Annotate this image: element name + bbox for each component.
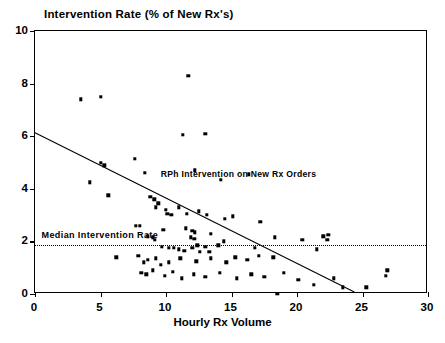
- scatter-point: [263, 275, 266, 278]
- scatter-point: [166, 212, 169, 215]
- scatter-point: [184, 227, 187, 230]
- y-tick-label: 6: [2, 129, 28, 141]
- scatter-point: [196, 244, 199, 247]
- scatter-point: [163, 274, 166, 277]
- x-tick-mark: [35, 292, 36, 297]
- scatter-point: [365, 286, 368, 289]
- scatter-point: [192, 237, 195, 240]
- scatter-point: [143, 171, 146, 174]
- scatter-point: [149, 195, 152, 198]
- x-tick-label: 30: [412, 301, 442, 313]
- scatter-point: [190, 246, 193, 249]
- scatter-point: [276, 292, 279, 295]
- scatter-point: [205, 213, 208, 216]
- series-annotation-label: RPh Intervention on New Rx Orders: [161, 169, 317, 179]
- scatter-point: [325, 238, 328, 241]
- scatter-point: [145, 273, 148, 276]
- scatter-point: [146, 234, 149, 237]
- median-intervention-rate-label: Median Intervention Rate: [42, 230, 159, 240]
- scatter-point: [88, 181, 91, 184]
- scatter-point: [170, 213, 173, 216]
- scatter-point: [142, 261, 145, 264]
- y-tick-mark: [30, 31, 35, 32]
- scatter-point: [133, 157, 136, 160]
- x-tick-label: 0: [19, 301, 49, 313]
- chart-title: Intervention Rate (% of New Rx's): [44, 8, 234, 20]
- scatter-point: [154, 257, 157, 260]
- scatter-point: [273, 236, 276, 239]
- scatter-point: [315, 248, 318, 251]
- trend-line-layer: [35, 31, 426, 292]
- scatter-point: [194, 259, 197, 262]
- scatter-point: [171, 270, 174, 273]
- x-tick-mark: [101, 292, 102, 297]
- x-tick-label: 5: [85, 301, 115, 313]
- y-tick-mark: [30, 241, 35, 242]
- y-tick-label: 4: [2, 182, 28, 194]
- scatter-point: [107, 194, 110, 197]
- scatter-point: [172, 246, 175, 249]
- scatter-point: [99, 95, 102, 98]
- scatter-point: [204, 275, 207, 278]
- scatter-point: [249, 273, 252, 276]
- x-tick-label: 25: [347, 301, 377, 313]
- scatter-point: [312, 283, 315, 286]
- scatter-point: [301, 238, 304, 241]
- scatter-point: [204, 132, 207, 135]
- scatter-point: [177, 206, 180, 209]
- scatter-point: [297, 278, 300, 281]
- y-tick-mark: [30, 136, 35, 137]
- scatter-point: [138, 224, 141, 227]
- scatter-point: [235, 277, 238, 280]
- y-tick-label: 8: [2, 77, 28, 89]
- x-tick-label: 10: [150, 301, 180, 313]
- scatter-point: [198, 250, 201, 253]
- scatter-point: [185, 212, 188, 215]
- scatter-point: [146, 258, 149, 261]
- scatter-point: [272, 255, 275, 258]
- scatter-point: [183, 249, 186, 252]
- scatter-point: [231, 215, 234, 218]
- scatter-point: [384, 274, 387, 277]
- scatter-point: [180, 277, 183, 280]
- scatter-point: [223, 217, 226, 220]
- scatter-point: [332, 277, 335, 280]
- y-tick-label: 0: [2, 287, 28, 299]
- scatter-point: [234, 255, 237, 258]
- scatter-point: [204, 245, 207, 248]
- scatter-point: [162, 228, 165, 231]
- scatter-point: [259, 220, 262, 223]
- scatter-point: [246, 258, 249, 261]
- scatter-point: [386, 269, 389, 272]
- regression-line: [35, 133, 354, 292]
- scatter-point: [219, 178, 222, 181]
- scatter-point: [282, 271, 285, 274]
- x-tick-label: 15: [216, 301, 246, 313]
- x-axis-title: Hourly Rx Volume: [0, 316, 445, 328]
- scatter-point: [134, 224, 137, 227]
- scatter-point: [159, 263, 162, 266]
- scatter-point: [115, 255, 118, 258]
- y-tick-label: 10: [2, 24, 28, 36]
- scatter-point: [327, 233, 330, 236]
- scatter-point: [208, 250, 211, 253]
- scatter-point: [153, 198, 156, 201]
- x-tick-mark: [166, 292, 167, 297]
- scatter-point: [154, 206, 157, 209]
- scatter-point: [179, 257, 182, 260]
- scatter-point: [187, 74, 190, 77]
- scatter-point: [79, 98, 82, 101]
- scatter-point: [151, 269, 154, 272]
- scatter-point: [160, 245, 163, 248]
- scatter-point: [247, 173, 250, 176]
- y-tick-mark: [30, 189, 35, 190]
- scatter-point: [257, 254, 260, 257]
- scatter-point: [167, 246, 170, 249]
- y-tick-mark: [30, 84, 35, 85]
- scatter-point: [341, 286, 344, 289]
- scatter-point: [192, 273, 195, 276]
- median-intervention-rate-line: [35, 245, 426, 246]
- scatter-point: [153, 238, 156, 241]
- scatter-point: [181, 133, 184, 136]
- chart-figure: Intervention Rate (% of New Rx's) Median…: [0, 0, 445, 343]
